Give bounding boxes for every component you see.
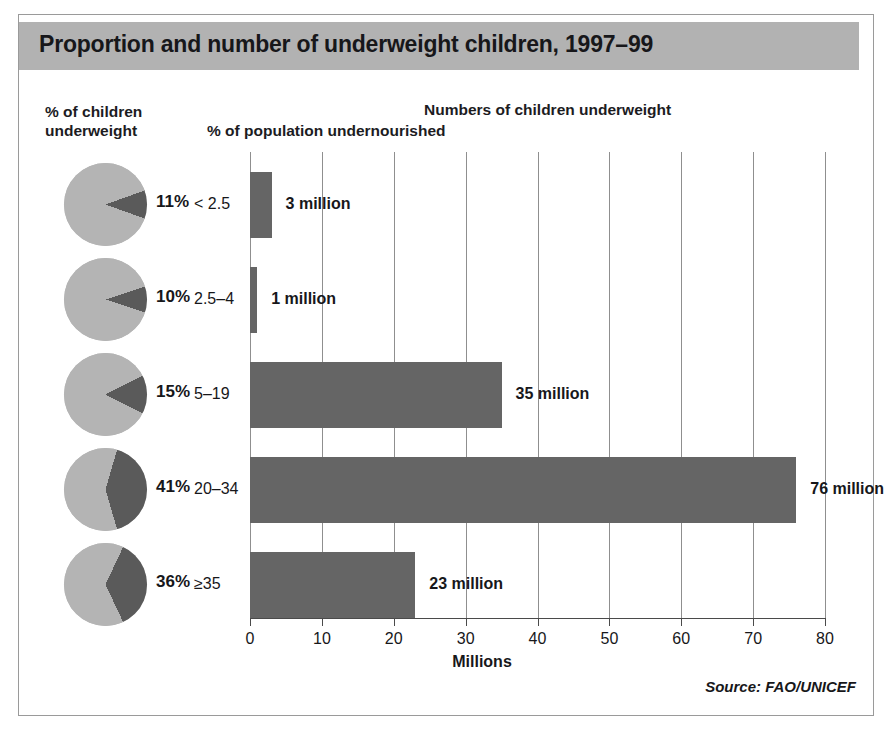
bar <box>250 552 415 618</box>
pie-row: 10% <box>48 258 198 354</box>
axis-category-heading: % of population undernourished <box>207 122 446 140</box>
x-axis-tick <box>753 618 754 626</box>
x-axis-tick <box>609 618 610 626</box>
pie-chart <box>64 353 147 436</box>
gridline <box>753 152 754 618</box>
bar-value-label: 23 million <box>429 575 503 593</box>
pie-column-heading-line1: % of children <box>45 103 142 121</box>
x-axis-tick <box>538 618 539 626</box>
chart-figure: Proportion and number of underweight chi… <box>0 0 892 735</box>
source-note: Source: FAO/UNICEF <box>705 678 856 695</box>
x-axis-tick <box>394 618 395 626</box>
pie-value-label: 10% <box>156 287 190 307</box>
gridline <box>825 152 826 618</box>
pie-chart <box>64 543 147 626</box>
category-label: < 2.5 <box>194 195 230 213</box>
x-axis-tick-label: 0 <box>246 630 255 648</box>
title-banner: Proportion and number of underweight chi… <box>19 22 859 70</box>
pie-chart <box>64 163 147 246</box>
pie-slice-underweight <box>64 543 147 626</box>
x-axis-tick-label: 80 <box>816 630 834 648</box>
pie-slice-underweight <box>64 448 147 531</box>
bar-value-label: 3 million <box>286 195 351 213</box>
x-axis-tick-label: 70 <box>744 630 762 648</box>
x-axis-tick <box>466 618 467 626</box>
x-axis-tick-label: 50 <box>600 630 618 648</box>
pie-chart <box>64 258 147 341</box>
x-axis-tick <box>250 618 251 626</box>
pie-slice-underweight <box>64 258 147 341</box>
pie-chart <box>64 448 147 531</box>
bar-value-label: 76 million <box>810 480 884 498</box>
x-axis-title: Millions <box>0 653 892 671</box>
bar <box>250 267 257 333</box>
gridline <box>681 152 682 618</box>
pie-slice-underweight <box>64 163 147 246</box>
pie-row: 36% <box>48 543 198 639</box>
bar <box>250 457 796 523</box>
bar <box>250 362 502 428</box>
bar-value-label: 35 million <box>516 385 590 403</box>
x-axis-tick-label: 60 <box>672 630 690 648</box>
category-label: 5–19 <box>194 385 230 403</box>
bar-value-label: 1 million <box>271 290 336 308</box>
gridline <box>609 152 610 618</box>
bar-plot-area: 3 million1 million35 million76 million23… <box>250 152 825 618</box>
category-label: 20–34 <box>194 480 239 498</box>
x-axis-tick-label: 40 <box>529 630 547 648</box>
pie-row: 11% <box>48 163 198 259</box>
x-axis-tick <box>825 618 826 626</box>
pie-value-label: 36% <box>156 572 190 592</box>
pie-value-label: 41% <box>156 477 190 497</box>
x-axis-title-text: Millions <box>452 653 512 670</box>
x-axis-tick-label: 10 <box>313 630 331 648</box>
pie-slice-underweight <box>64 353 147 436</box>
pie-row: 15% <box>48 353 198 449</box>
pie-row: 41% <box>48 448 198 544</box>
category-label: ≥35 <box>194 575 221 593</box>
category-label: 2.5–4 <box>194 290 234 308</box>
bar <box>250 172 272 238</box>
x-axis-tick-label: 30 <box>457 630 475 648</box>
x-axis-tick-label: 20 <box>385 630 403 648</box>
pie-value-label: 11% <box>156 192 189 212</box>
pie-value-label: 15% <box>156 382 190 402</box>
x-axis-tick <box>681 618 682 626</box>
bars-column-heading: Numbers of children underweight <box>424 101 671 119</box>
x-axis-tick <box>322 618 323 626</box>
pie-column-heading-line2: underweight <box>45 122 137 140</box>
page-title: Proportion and number of underweight chi… <box>39 31 653 58</box>
